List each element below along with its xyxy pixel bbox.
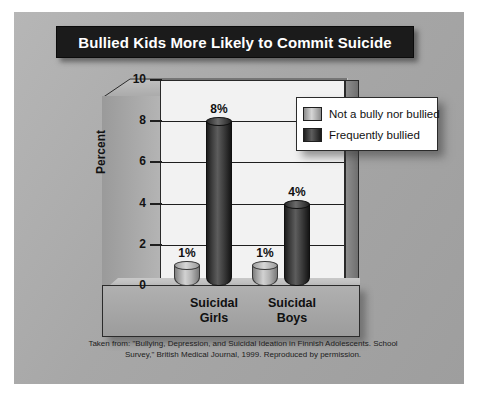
footnote-line-2: Survey," British Medical Journal, 1999. … [50,349,436,360]
bar-cap [284,200,310,209]
y-axis-label: 4 [120,196,146,210]
bar-body [284,204,310,286]
y-axis-tick [150,244,162,246]
legend-swatch-icon-dark [303,128,322,142]
gridline [161,80,344,81]
footnote-line-1: Taken from: "Bullying, Depression, and S… [50,338,436,349]
gridline [161,162,344,163]
chart-title-bar: Bullied Kids More Likely to Commit Suici… [56,26,414,58]
bar-body [206,121,232,286]
y-axis-tick [150,79,162,81]
legend-item-frequently-bullied: Frequently bullied [303,124,431,145]
bar [284,204,310,286]
bar-value-label: 1% [167,246,207,260]
category-label-line: Boys [246,311,338,326]
bar [174,265,200,286]
legend-label-not-bullied: Not a bully nor bullied [329,108,440,120]
y-axis-tick [150,161,162,163]
y-axis-tick [150,203,162,205]
bar [206,121,232,286]
bar-value-label: 1% [245,246,285,260]
y-axis-tick [150,120,162,122]
y-axis-label: 6 [120,154,146,168]
screenshot-root: Bullied Kids More Likely to Commit Suici… [0,0,486,398]
category-label: SuicidalBoys [246,296,338,326]
bar-value-label: 4% [277,185,317,199]
source-footnote: Taken from: "Bullying, Depression, and S… [50,338,436,360]
legend-swatch-icon-light [303,107,322,121]
y-axis-label: 8 [120,113,146,127]
y-axis-label: 0 [120,278,146,292]
gridline [161,204,344,205]
chart-legend: Not a bully nor bullied Frequently bulli… [296,97,438,151]
bar [252,265,278,286]
category-label-line: Suicidal [246,296,338,311]
bar-value-label: 8% [199,102,239,116]
y-axis-title: Percent [94,130,108,174]
legend-item-not-bullied: Not a bully nor bullied [303,103,431,124]
y-axis-label: 10 [120,72,146,86]
y-axis-label: 2 [120,237,146,251]
legend-label-frequently-bullied: Frequently bullied [329,129,420,141]
page-title: Bullied Kids More Likely to Commit Suici… [78,34,391,51]
